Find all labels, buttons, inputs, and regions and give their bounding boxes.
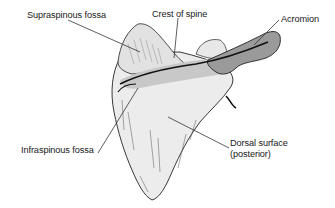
scapula-diagram [0, 0, 335, 208]
lateral-border [226, 96, 236, 108]
label-acromion: Acromion [281, 14, 319, 25]
label-dorsal-surface: Dorsal surface [230, 138, 288, 149]
label-crest-of-spine: Crest of spine [152, 9, 207, 20]
label-supraspinous-fossa: Supraspinous fossa [27, 10, 106, 21]
label-dorsal-surface-posterior: (posterior) [230, 149, 271, 160]
label-infraspinous-fossa: Infraspinous fossa [21, 145, 94, 156]
